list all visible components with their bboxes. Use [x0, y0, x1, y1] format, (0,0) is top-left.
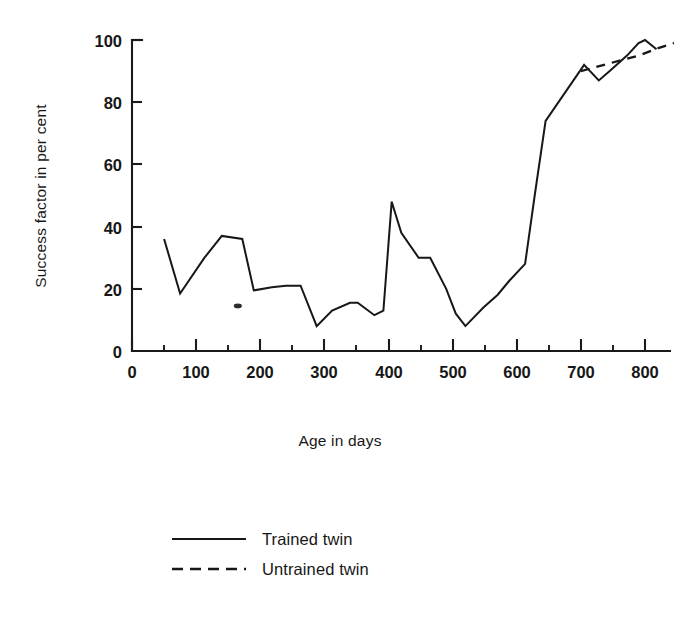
series-line-trained-twin	[164, 40, 656, 326]
x-tick-label: 700	[567, 363, 595, 381]
x-axis-title: Age in days	[298, 432, 381, 449]
legend-label-untrained-twin: Untrained twin	[262, 560, 369, 579]
x-axis-major-ticks	[132, 339, 645, 351]
x-tick-label: 0	[127, 363, 136, 381]
x-tick-label: 800	[631, 363, 659, 381]
y-tick-label: 80	[104, 94, 122, 112]
y-tick-label: 100	[94, 32, 122, 50]
x-tick-label: 300	[310, 363, 338, 381]
x-tick-label: 200	[246, 363, 274, 381]
series-line-untrained-twin	[581, 43, 674, 71]
x-tick-label: 600	[503, 363, 531, 381]
y-axis-tick-labels: 100 80 60 40 20 0	[94, 32, 122, 361]
y-axis-ticks	[132, 40, 142, 289]
x-tick-label: 500	[439, 363, 467, 381]
ink-speck	[234, 304, 242, 309]
chart-figure: 100 80 60 40 20 0	[0, 0, 684, 628]
legend-label-trained-twin: Trained twin	[262, 530, 352, 549]
line-chart-plot: 100 80 60 40 20 0	[0, 0, 684, 520]
legend-item-untrained-twin: Untrained twin	[170, 554, 500, 584]
y-tick-label: 60	[104, 156, 122, 174]
axes	[132, 40, 670, 351]
y-axis-title: Success factor in per cent	[32, 104, 49, 288]
x-axis-tick-labels: 0 100 200 300 400 500 600 700 800	[127, 363, 658, 381]
y-tick-label: 40	[104, 219, 122, 237]
y-tick-label: 0	[113, 343, 122, 361]
x-tick-label: 100	[182, 363, 210, 381]
chart-legend: Trained twin Untrained twin	[170, 524, 500, 584]
legend-key-solid-line	[170, 532, 248, 546]
x-tick-label: 400	[375, 363, 403, 381]
legend-key-dashed-line	[170, 562, 248, 576]
legend-item-trained-twin: Trained twin	[170, 524, 500, 554]
y-tick-label: 20	[104, 281, 122, 299]
